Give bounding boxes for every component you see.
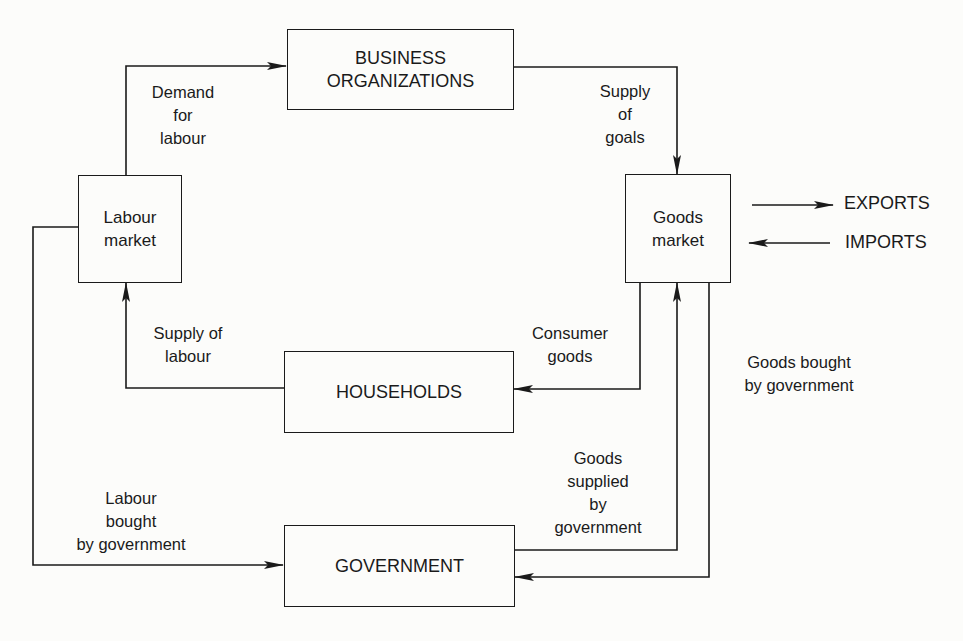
goods-market-box: Goods market [625, 174, 731, 283]
goods-bought-by-government-label: Goods bought by government [722, 351, 876, 397]
labour-bought-by-government-label: Labour bought by government [52, 487, 210, 556]
exports-label: EXPORTS [844, 192, 930, 215]
imports-label: IMPORTS [845, 231, 927, 254]
government-label: GOVERNMENT [335, 555, 464, 578]
labour-market-label: Labour market [104, 206, 157, 252]
labour-market-box: Labour market [78, 175, 182, 283]
households-label: HOUSEHOLDS [336, 381, 462, 404]
supply-of-goals-label: Supply of goals [590, 80, 660, 149]
business-organizations-label: BUSINESS ORGANIZATIONS [327, 47, 475, 93]
households-box: HOUSEHOLDS [284, 351, 514, 433]
goods-supplied-by-government-label: Goods supplied by government [540, 447, 656, 539]
demand-for-labour-label: Demand for labour [140, 81, 226, 150]
business-organizations-box: BUSINESS ORGANIZATIONS [287, 29, 514, 110]
supply-of-labour-label: Supply of labour [138, 322, 238, 368]
consumer-goods-label: Consumer goods [520, 322, 620, 368]
goods-market-label: Goods market [652, 206, 704, 252]
government-box: GOVERNMENT [284, 525, 515, 607]
